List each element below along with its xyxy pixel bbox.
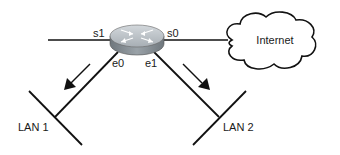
lan1-segment xyxy=(29,91,82,145)
interface-s1-label: s1 xyxy=(93,27,105,39)
link-e0-lan1 xyxy=(55,52,118,117)
lan2-label: LAN 2 xyxy=(223,121,254,133)
interface-s0-label: s0 xyxy=(167,27,179,39)
internet-label: Internet xyxy=(256,34,293,46)
interface-e0-label: e0 xyxy=(112,57,124,69)
link-e1-lan2 xyxy=(154,52,219,117)
lan1-label: LAN 1 xyxy=(18,121,49,133)
router-icon xyxy=(110,25,164,55)
interface-e1-label: e1 xyxy=(145,57,157,69)
network-diagram: Internet s1 s0 e0 e1 LAN 1 LAN 2 xyxy=(0,0,340,155)
